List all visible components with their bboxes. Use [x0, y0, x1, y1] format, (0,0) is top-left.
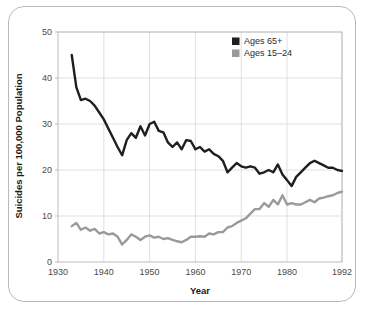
suicide-rate-line-chart: 01020304050 1930194019501960197019801992…	[0, 0, 366, 312]
y-tick-label: 40	[42, 73, 52, 83]
x-tick-label: 1930	[48, 267, 68, 277]
y-tick-label: 50	[42, 27, 52, 37]
x-tick-label: 1960	[185, 267, 205, 277]
x-tick-label: 1970	[231, 267, 251, 277]
x-tick-label: 1992	[332, 267, 352, 277]
x-tick-label: 1950	[140, 267, 160, 277]
legend-swatch-2	[232, 50, 240, 58]
x-axis-title: Year	[190, 285, 210, 296]
legend-swatch-1	[232, 38, 240, 46]
series-line-1	[72, 55, 342, 186]
legend-label-2: Ages 15–24	[244, 48, 292, 58]
y-axis-tick-labels: 01020304050	[42, 27, 58, 267]
y-tick-label: 0	[47, 257, 52, 267]
y-tick-label: 30	[42, 119, 52, 129]
legend-label-1: Ages 65+	[244, 36, 282, 46]
y-axis-title: Suicides per 100,000 Population	[13, 73, 24, 218]
series-line-2	[72, 192, 342, 245]
x-tick-label: 1940	[94, 267, 114, 277]
y-tick-label: 20	[42, 165, 52, 175]
y-tick-label: 10	[42, 211, 52, 221]
x-tick-label: 1980	[277, 267, 297, 277]
x-axis-tick-labels: 1930194019501960197019801992	[48, 267, 352, 277]
